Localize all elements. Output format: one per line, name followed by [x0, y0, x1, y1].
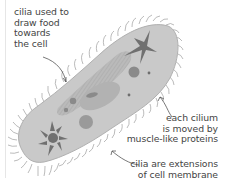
label-cilia-membrane-extensions: cilia are extensions of cell membrane	[130, 159, 218, 180]
label-line: the cell	[14, 39, 69, 50]
label-line: cilia are extensions	[130, 159, 218, 170]
label-cilia-draw-food: cilia used to draw food towards the cell	[14, 7, 69, 49]
label-cilium-muscle-proteins: each cilium is moved by muscle-like prot…	[127, 113, 218, 145]
label-line: each cilium	[127, 113, 218, 124]
label-line: muscle-like proteins	[127, 134, 218, 145]
label-line: of cell membrane	[130, 170, 218, 181]
label-line: cilia used to	[14, 7, 69, 18]
